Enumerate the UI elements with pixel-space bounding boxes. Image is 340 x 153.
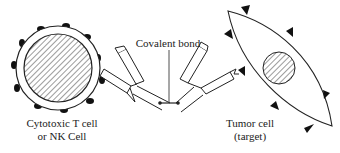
target-cell (224, 5, 332, 133)
label-covalent-bond: Covalent bond (136, 37, 201, 49)
label-target-cell-line1: Tumor cell (226, 117, 274, 129)
label-effector-cell-line2: or NK Cell (38, 130, 87, 142)
effector-cell-nucleus (24, 34, 92, 102)
label-target-cell-line2: (target) (234, 130, 267, 143)
effector-cell (11, 23, 105, 113)
label-effector-cell-line1: Cytotoxic T cell (26, 117, 97, 129)
diagram-canvas: Cytotoxic T cell or NK Cell Covalent bon… (0, 0, 340, 153)
target-cell-nucleus (263, 52, 295, 84)
antibody-left-arm (100, 46, 170, 110)
antibody-right-arm (176, 42, 239, 112)
